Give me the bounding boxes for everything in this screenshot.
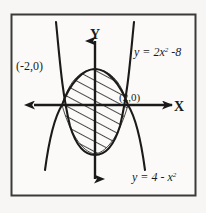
point-label-right: (2,0) [119, 91, 140, 104]
equation-label-downward: y = 4 - x2 [131, 170, 177, 184]
equation-label-upward: y = 2x2 -8 [133, 45, 181, 59]
equation-upward-lead: y = 2x [133, 45, 165, 59]
parabola-figure: Y X (-2,0) (2,0) y = 2x2 -8 y = 4 - x2 [0, 0, 206, 213]
equation-upward-tail: -8 [168, 45, 181, 59]
figure-container: Y X (-2,0) (2,0) y = 2x2 -8 y = 4 - x2 [0, 0, 206, 213]
y-axis-label: Y [90, 27, 100, 42]
x-axis-label: X [174, 99, 184, 114]
point-label-left: (-2,0) [16, 59, 43, 73]
equation-downward-lead: y = 4 - x [131, 170, 173, 184]
equation-downward-exponent: 2 [173, 171, 177, 179]
